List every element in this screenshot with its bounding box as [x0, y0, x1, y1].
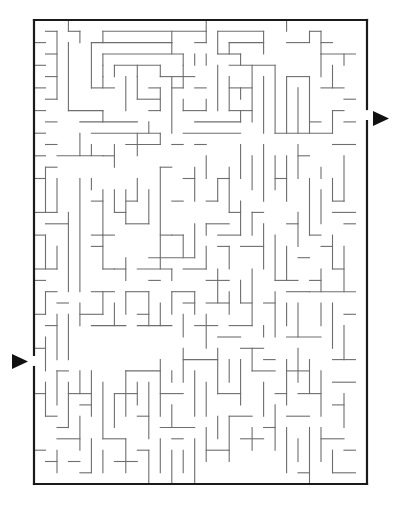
- exit-arrow-icon: [373, 111, 389, 126]
- maze-walls: [34, 20, 355, 484]
- maze-border: [34, 20, 367, 484]
- entry-arrow-icon: [12, 354, 28, 369]
- maze-canvas: [0, 0, 403, 505]
